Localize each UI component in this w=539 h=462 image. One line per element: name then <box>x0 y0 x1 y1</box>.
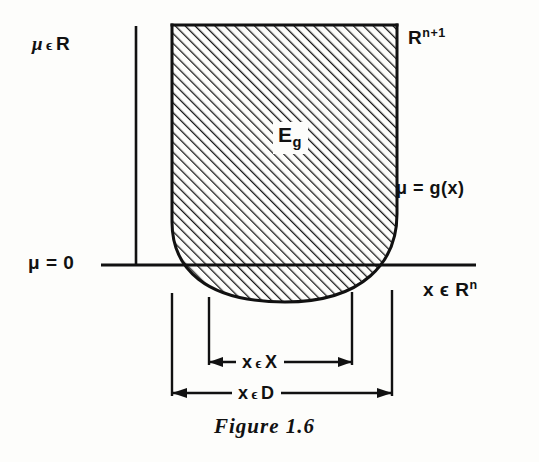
origin-level-label: μ = 0 <box>28 252 74 274</box>
horizontal-axis-label: x ϵ Rn <box>423 278 478 301</box>
dimension-ticks-d <box>172 290 392 396</box>
mu-glyph: μ <box>32 33 43 54</box>
dim-d-set: D <box>261 383 275 403</box>
epigraph-subscript: g <box>293 134 302 150</box>
dim-x-head: x <box>242 352 253 372</box>
boundary-curve-label: μ = g(x) <box>396 178 465 199</box>
figure-caption: Figure 1.6 <box>214 414 315 439</box>
dimension-label-x-in-X: xϵX <box>236 352 284 373</box>
horizontal-axis-base: x ϵ R <box>423 279 469 300</box>
ambient-space-base: R <box>408 27 422 48</box>
figure-1-6: μϵμ ϵ RR Rn+1 Eg μ = g(x) μ = 0 x ϵ Rn x… <box>0 0 539 462</box>
epigraph-label: Eg <box>273 122 308 154</box>
epigraph-base: E <box>278 123 293 146</box>
horizontal-axis-exponent: n <box>469 278 477 292</box>
dim-x-set: X <box>265 352 278 372</box>
element-of-icon: ϵ <box>43 36 56 53</box>
vertical-axis-label: μϵμ ϵ RR <box>32 33 70 55</box>
ambient-space-exponent: n+1 <box>422 26 445 40</box>
dimension-label-x-in-D: xϵD <box>232 383 281 404</box>
element-of-icon: ϵ <box>249 386 262 402</box>
ambient-space-label: Rn+1 <box>408 26 446 49</box>
dim-d-head: x <box>238 383 249 403</box>
dimension-line-x-in-D <box>172 388 392 398</box>
element-of-icon: ϵ <box>253 355 266 371</box>
